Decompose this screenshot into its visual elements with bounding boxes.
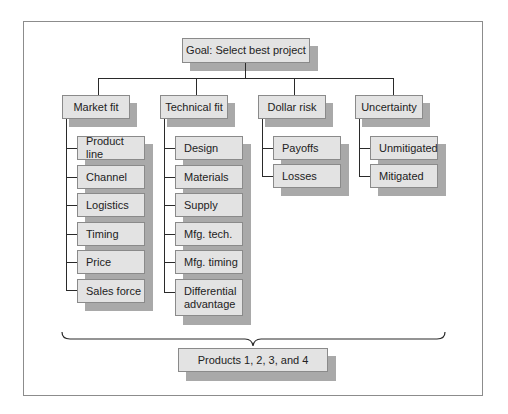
alternatives-box: Products 1, 2, 3, and 4 [178,348,328,372]
alternatives-node: Products 1, 2, 3, and 4 [178,348,328,372]
